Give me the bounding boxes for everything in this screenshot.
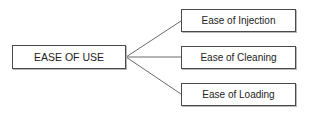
child-node-injection: Ease of Injection <box>181 9 296 32</box>
child-node-cleaning: Ease of Cleaning <box>181 46 296 69</box>
child-node-label: Ease of Injection <box>202 15 276 26</box>
root-node-box: EASE OF USE <box>12 45 126 69</box>
connector-to-loading <box>126 57 181 94</box>
child-node-label: Ease of Loading <box>202 89 274 100</box>
child-node-label: Ease of Cleaning <box>200 52 276 63</box>
root-node-label: EASE OF USE <box>34 51 104 63</box>
child-node-loading: Ease of Loading <box>181 83 296 106</box>
connector-to-injection <box>126 21 181 57</box>
